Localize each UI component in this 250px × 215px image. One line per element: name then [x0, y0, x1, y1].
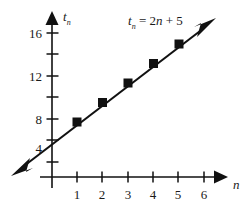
- y-tick-label-4: 4: [20, 142, 42, 155]
- x-tick-label-4: 4: [145, 188, 161, 201]
- y-tick-label-8: 8: [20, 113, 42, 126]
- data-point-markers: [73, 40, 184, 127]
- data-point-n3: [124, 79, 133, 88]
- y-tick-label-16: 16: [20, 27, 42, 40]
- data-point-n5: [175, 40, 184, 49]
- x-axis-label-base: n: [233, 177, 240, 192]
- x-tick-label-1: 1: [69, 188, 85, 201]
- y-axis-label-subscript: n: [67, 18, 71, 27]
- x-axis-arrowhead: [214, 171, 228, 184]
- y-axis-arrowhead: [46, 11, 59, 25]
- data-point-n2: [98, 98, 107, 107]
- x-tick-label-3: 3: [120, 188, 136, 201]
- equation-annotation: tn = 2n + 5: [128, 14, 183, 31]
- x-tick-label-2: 2: [94, 188, 110, 201]
- equation-intercept: + 5: [162, 13, 182, 28]
- y-axis-label: tn: [63, 10, 71, 27]
- x-tick-label-5: 5: [170, 188, 186, 201]
- chart-figure: 16 12 8 4 1 2 3 4 5 6 tn n tn = 2n + 5: [0, 0, 250, 215]
- data-point-n4: [149, 59, 158, 68]
- x-tick-label-6: 6: [196, 188, 212, 201]
- equation-equals-coefficient: = 2: [136, 13, 156, 28]
- x-axis-label: n: [233, 178, 240, 191]
- y-tick-label-12: 12: [20, 70, 42, 83]
- data-point-n1: [73, 118, 82, 127]
